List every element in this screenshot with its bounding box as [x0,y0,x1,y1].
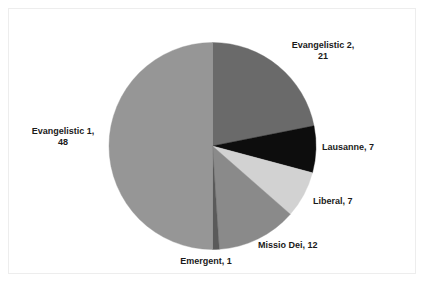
slice-label-liberal: Liberal, 7 [313,196,399,207]
slice-label-lausanne: Lausanne, 7 [322,142,414,153]
slice-label-emergent: Emergent, 1 [160,256,252,267]
pie-slice-evangelistic-1 [109,43,212,250]
screenshot-root: Evangelistic 2, 21 Lausanne, 7 Liberal, … [0,0,424,284]
pie-slice-group [109,43,316,250]
slice-label-evangelistic-1: Evangelistic 1, 48 [14,126,112,148]
slice-label-missio-dei: Missio Dei, 12 [258,240,358,251]
slice-label-evangelistic-2: Evangelistic 2, 21 [275,40,371,62]
